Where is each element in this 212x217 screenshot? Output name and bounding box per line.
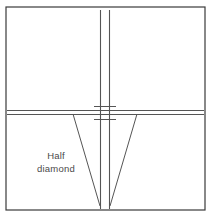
caption-line-2: diamond — [37, 163, 75, 174]
figure-background — [0, 0, 212, 217]
half-diamond-diagram: Half diamond — [0, 0, 212, 217]
caption-line-1: Half — [47, 150, 65, 161]
figure-root: Half diamond — [0, 0, 212, 217]
